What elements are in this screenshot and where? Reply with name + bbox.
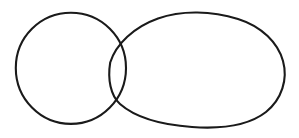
two-curves-diagram: Two overlapping closed curves A circle o… (0, 0, 299, 138)
figure-canvas: Two overlapping closed curves A circle o… (0, 0, 299, 138)
